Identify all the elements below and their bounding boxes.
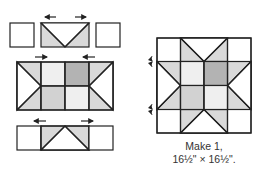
flying-geese-unit [41,23,89,47]
caption-quantity: Make 1, [157,140,251,152]
corner-square [96,23,120,47]
corner-square [10,23,34,47]
sawtooth-star-block [157,38,251,133]
bottom-row [17,121,113,150]
press-arrow-up-down-icon [151,56,152,67]
caption-size: 16½" × 16½". [157,153,251,165]
top-row [10,17,120,47]
press-arrow-up-down-icon [151,104,152,115]
middle-unit [17,57,113,110]
